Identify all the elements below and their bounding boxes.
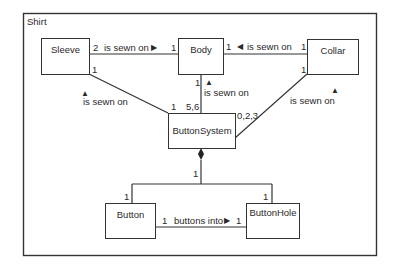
assoc-label-collar-bs: is sewn on xyxy=(290,96,335,106)
class-body-name: Body xyxy=(179,44,223,55)
frame-title: Shirt xyxy=(27,17,47,27)
mult-body-sleeve: 1 xyxy=(171,43,176,53)
mult-sleeve-bs: 1 xyxy=(92,65,97,75)
mult-bs-collar: 0,2,3 xyxy=(237,111,258,121)
mult-bh-button: 1 xyxy=(236,216,241,226)
class-buttonsystem[interactable]: ButtonSystem xyxy=(168,113,236,149)
mult-collar-bs: 1 xyxy=(301,65,306,75)
class-body[interactable]: Body xyxy=(178,38,224,75)
arrow-left-icon: ◀ xyxy=(237,42,243,52)
arrow-right-icon: ▶ xyxy=(224,216,230,226)
class-collar-name: Collar xyxy=(308,45,358,56)
mult-body-bs: 1 xyxy=(195,78,200,88)
class-collar[interactable]: Collar xyxy=(307,39,359,75)
mult-collar-body: 1 xyxy=(301,42,306,52)
mult-body-collar: 1 xyxy=(226,42,231,52)
mult-composition-buttonhole: 1 xyxy=(263,192,268,202)
assoc-label-sleeve-body: is sewn on xyxy=(104,43,149,53)
mult-bs-sleeve: 1 xyxy=(171,102,176,112)
assoc-label-button-bh: buttons into xyxy=(174,216,223,226)
mult-composition-bs: 1 xyxy=(193,169,198,179)
mult-bs-body: 5,6 xyxy=(186,102,199,112)
class-buttonhole[interactable]: ButtonHole xyxy=(246,203,300,239)
class-buttonsystem-name: ButtonSystem xyxy=(169,125,235,136)
assoc-label-body-bs: is sewn on xyxy=(204,88,249,98)
assoc-label-collar-body: is sewn on xyxy=(247,42,292,52)
class-buttonhole-name: ButtonHole xyxy=(247,207,299,218)
class-sleeve-name: Sleeve xyxy=(42,44,89,55)
mult-composition-button: 1 xyxy=(124,192,129,202)
mult-button-bh: 1 xyxy=(162,216,167,226)
mult-sleeve-body: 2 xyxy=(93,43,98,53)
assoc-label-sleeve-bs: is sewn on xyxy=(83,97,128,107)
class-sleeve[interactable]: Sleeve xyxy=(41,38,90,75)
class-button-name: Button xyxy=(106,209,155,220)
class-button[interactable]: Button xyxy=(105,203,156,239)
arrow-right-icon: ▶ xyxy=(151,43,157,53)
